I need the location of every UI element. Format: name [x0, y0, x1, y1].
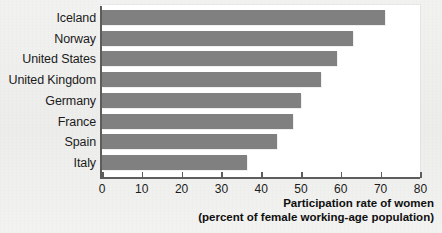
bar-france — [102, 114, 293, 129]
x-tick-50 — [301, 172, 303, 178]
x-tick-0 — [102, 172, 104, 178]
category-label-norway: Norway — [0, 30, 96, 49]
x-tick-80 — [420, 172, 422, 178]
bar-row — [102, 154, 422, 173]
bar-germany — [102, 93, 301, 108]
caption-line-2: (percent of female working-age populatio… — [14, 210, 434, 224]
category-axis-labels: Iceland Norway United States United King… — [0, 9, 96, 173]
x-tick-label-20: 20 — [175, 182, 188, 196]
axis-caption: Participation rate of women (percent of … — [14, 196, 434, 224]
x-tick-label-30: 30 — [215, 182, 228, 196]
x-tick-40 — [261, 172, 263, 178]
bar-row — [102, 133, 422, 152]
bar-row — [102, 92, 422, 111]
x-tick-label-70: 70 — [374, 182, 387, 196]
bar-row — [102, 30, 422, 49]
x-tick-label-80: 80 — [414, 182, 427, 196]
bar-row — [102, 113, 422, 132]
x-tick-label-50: 50 — [294, 182, 307, 196]
x-tick-label-40: 40 — [255, 182, 268, 196]
x-axis-line — [100, 177, 420, 179]
category-label-united-kingdom: United Kingdom — [0, 71, 96, 90]
bar-iceland — [102, 10, 385, 25]
caption-line-1: Participation rate of women — [14, 196, 434, 210]
category-label-iceland: Iceland — [0, 9, 96, 28]
x-tick-label-0: 0 — [99, 182, 106, 196]
bar-row — [102, 9, 422, 28]
bar-row — [102, 71, 422, 90]
x-tick-60 — [341, 172, 343, 178]
bar-series — [102, 9, 422, 173]
bar-italy — [102, 155, 247, 170]
bar-spain — [102, 134, 277, 149]
x-tick-label-10: 10 — [135, 182, 148, 196]
category-label-united-states: United States — [0, 50, 96, 69]
x-tick-10 — [142, 172, 144, 178]
y-axis-line — [100, 6, 102, 178]
figure-container: Iceland Norway United States United King… — [0, 0, 442, 233]
category-label-spain: Spain — [0, 133, 96, 152]
bar-united-states — [102, 51, 337, 66]
bar-norway — [102, 31, 353, 46]
category-label-germany: Germany — [0, 92, 96, 111]
bar-row — [102, 50, 422, 69]
x-tick-70 — [381, 172, 383, 178]
category-label-france: France — [0, 113, 96, 132]
category-label-italy: Italy — [0, 154, 96, 173]
x-tick-label-60: 60 — [334, 182, 347, 196]
bar-united-kingdom — [102, 72, 321, 87]
x-tick-30 — [221, 172, 223, 178]
x-tick-20 — [182, 172, 184, 178]
